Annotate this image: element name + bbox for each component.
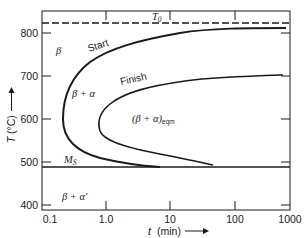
y-axis-arrow-icon (9, 87, 15, 93)
x-ticks-top (106, 11, 235, 20)
beta-alpha-region-label: β + α (71, 88, 96, 99)
x-tick-1000: 1000 (278, 213, 302, 225)
plot-frame (42, 11, 290, 210)
y-ticks-right (281, 33, 290, 205)
y-tick-600: 600 (20, 113, 38, 125)
x-tick-0.1: 0.1 (43, 213, 58, 225)
y-ticks-left (42, 33, 51, 205)
beta-region-label: β (55, 45, 62, 56)
eqm-region-label: (β + α)eqm (132, 113, 175, 126)
beta-alpha-prime-region-label: β + α' (61, 191, 88, 202)
svg-text:(°C): (°C) (5, 115, 17, 134)
x-tick-10: 10 (164, 213, 176, 225)
ttt-diagram: 800 700 600 500 400 0.1 1.0 10 100 1000 … (0, 0, 306, 238)
finish-label: Finish (119, 71, 147, 87)
x-ticks-bottom (106, 201, 235, 210)
y-tick-700: 700 (20, 70, 38, 82)
y-tick-400: 400 (20, 199, 38, 211)
svg-text:T: T (5, 135, 17, 143)
x-tick-labels: 0.1 1.0 10 100 1000 (43, 213, 302, 225)
start-label: Start (86, 37, 110, 54)
x-tick-1.0: 1.0 (99, 213, 114, 225)
y-axis-label: T (°C) (5, 87, 17, 143)
ms-label: MS (63, 154, 77, 167)
finish-curve (99, 75, 283, 165)
y-tick-800: 800 (20, 27, 38, 39)
y-tick-labels: 800 700 600 500 400 (20, 27, 38, 211)
x-axis-label: t (min) (148, 225, 209, 237)
svg-text:t: t (148, 225, 152, 237)
x-axis-arrow-icon (203, 228, 209, 234)
x-tick-100: 100 (226, 213, 244, 225)
t0-label: T0 (152, 11, 162, 24)
svg-text:(min): (min) (157, 225, 181, 237)
y-tick-500: 500 (20, 156, 38, 168)
